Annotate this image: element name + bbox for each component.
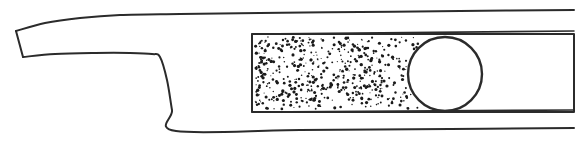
stipple-dot (254, 66, 257, 69)
stipple-dot (405, 66, 406, 67)
stipple-dot (261, 76, 264, 79)
stipple-dot (317, 66, 319, 68)
stipple-dot (352, 97, 354, 99)
stipple-dot (375, 50, 377, 52)
stipple-dot (391, 56, 394, 59)
stipple-dot (280, 44, 281, 45)
stipple-dot (364, 75, 365, 76)
stipple-dot (327, 50, 329, 52)
stipple-dot (279, 68, 281, 70)
stipple-dot (366, 69, 368, 71)
stipple-dot (405, 60, 407, 62)
stipple-dot (367, 59, 369, 61)
stipple-dot (317, 85, 319, 87)
stipple-dot (264, 92, 265, 93)
stipple-dot (307, 91, 308, 92)
stipple-dot (290, 87, 293, 90)
stipple-dot (306, 85, 307, 86)
stipple-dot (316, 54, 317, 55)
stipple-dot (351, 104, 352, 105)
stipple-dot (329, 82, 332, 85)
stipple-dot (298, 78, 301, 81)
stipple-dot (335, 77, 337, 79)
stipple-dot (381, 81, 383, 83)
stipple-dot (371, 37, 373, 39)
stipple-dot (310, 52, 312, 54)
stipple-dot (341, 59, 342, 60)
stipple-dot (257, 76, 259, 78)
stipple-dot (280, 49, 283, 52)
stipple-dot (276, 96, 278, 98)
stipple-dot (266, 85, 268, 87)
stipple-dot (375, 94, 377, 96)
stipple-dot (379, 90, 382, 93)
stipple-dot (271, 98, 273, 100)
stipple-dot (406, 96, 408, 98)
stipple-dot (286, 92, 288, 94)
stipple-dot (264, 42, 265, 43)
stipple-dot (353, 86, 356, 89)
stipple-dot (387, 63, 390, 66)
stipple-dot (391, 100, 393, 102)
stipple-dot (356, 85, 358, 87)
stipple-dot (298, 85, 300, 87)
stipple-dot (353, 77, 355, 79)
stipple-dot (267, 36, 268, 37)
stipple-dot (393, 81, 396, 84)
stipple-dot (267, 83, 269, 85)
stipple-dot (328, 52, 331, 55)
stipple-dot (376, 104, 378, 106)
stipple-dot (258, 65, 260, 67)
stipple-dot (400, 100, 403, 103)
stipple-dot (344, 89, 346, 91)
stipple-dot (261, 56, 264, 59)
stipple-dot (381, 94, 384, 97)
stipple-dot (309, 98, 312, 101)
stipple-dot (361, 102, 363, 104)
stipple-dot (312, 40, 315, 43)
stipple-dot (342, 44, 345, 47)
stipple-dot (293, 48, 295, 50)
stipple-dot (377, 70, 379, 72)
stipple-dot (290, 46, 293, 49)
stipple-dot (332, 100, 333, 101)
stipple-dot (376, 89, 377, 90)
stipple-dot (388, 105, 390, 107)
stipple-dot (266, 107, 269, 110)
stipple-dot (402, 75, 404, 77)
stipple-dot (369, 75, 371, 77)
stipple-dot (369, 85, 371, 87)
stipple-dot (307, 75, 310, 78)
stipple-dot (384, 64, 386, 66)
stipple-dot (320, 73, 322, 75)
stipple-dot (304, 71, 305, 72)
stipple-dot (265, 40, 267, 42)
stipple-dot (352, 99, 355, 102)
stipple-dot (313, 91, 316, 94)
stipple-dot (402, 94, 403, 95)
stipple-dot (358, 74, 361, 77)
technical-drawing-canvas: Tapered blade profile with stippled sect… (0, 0, 588, 151)
stipple-dot (300, 40, 301, 41)
stipple-dot (337, 87, 339, 89)
stipple-dot (310, 39, 312, 41)
stipple-dot (326, 97, 329, 100)
stipple-dot (358, 92, 361, 95)
stipple-dot (378, 94, 380, 96)
stipple-dot (312, 62, 314, 64)
stipple-dot (321, 58, 322, 59)
stipple-dot (255, 101, 257, 103)
stipple-dot (309, 58, 312, 61)
stipple-dot (290, 101, 292, 103)
stipple-dot (333, 106, 336, 109)
stipple-dot (318, 65, 319, 66)
stipple-dot (275, 69, 277, 71)
stipple-dot (401, 37, 402, 38)
stipple-dot (355, 91, 357, 93)
stipple-dot (273, 91, 274, 92)
stipple-dot (331, 61, 333, 63)
stipple-dot (411, 43, 414, 46)
stipple-dot (341, 47, 342, 48)
stipple-dot (333, 43, 336, 46)
stipple-dot (287, 76, 289, 78)
